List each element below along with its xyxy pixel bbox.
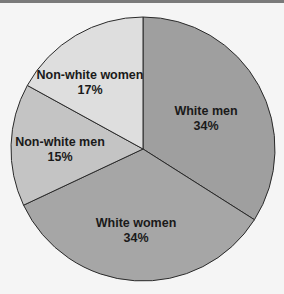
label-name: White women: [96, 216, 177, 230]
label-pct: 34%: [193, 119, 218, 133]
label-name: White men: [174, 104, 237, 118]
pie-chart: White men 34% White women 34% Non-white …: [0, 0, 284, 294]
label-pct: 15%: [47, 150, 72, 164]
label-pct: 17%: [77, 83, 102, 97]
label-name: Non-white women: [37, 68, 144, 82]
label-name: Non-white men: [15, 135, 105, 149]
label-pct: 34%: [123, 231, 148, 245]
